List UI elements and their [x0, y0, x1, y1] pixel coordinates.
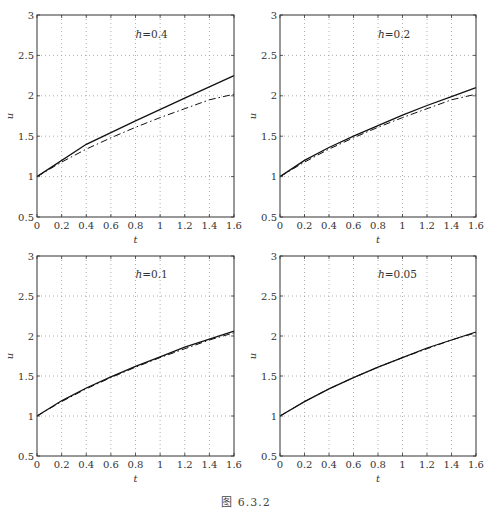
grid: [37, 15, 234, 217]
x-tick-label: 0.4: [78, 220, 94, 231]
y-tick-label: 1: [28, 171, 34, 182]
x-tick-label: 0.6: [103, 220, 119, 231]
x-tick-label: 1.2: [419, 459, 435, 470]
y-tick-label: 2.5: [261, 50, 277, 61]
x-tick-label: 0: [34, 220, 40, 231]
y-tick-label: 1.5: [18, 131, 34, 142]
x-tick-label: 0.8: [370, 220, 386, 231]
x-tick-label: 0.6: [346, 220, 362, 231]
x-tick-label: 1: [399, 220, 405, 231]
x-tick-label: 0: [34, 459, 40, 470]
y-tick-label: 0.5: [18, 451, 34, 462]
y-tick-label: 0.5: [261, 451, 277, 462]
x-tick-label: 0.2: [54, 220, 70, 231]
y-axis-label: u: [4, 353, 15, 359]
y-tick-label: 3: [28, 251, 34, 262]
x-tick-label: 1.2: [177, 220, 193, 231]
y-tick-label: 1.5: [261, 371, 277, 382]
y-tick-label: 3: [28, 10, 34, 21]
series-dash-dot: [37, 333, 234, 416]
step-size-annotation: h=0.05: [378, 268, 417, 280]
x-tick-label: 1.6: [226, 459, 242, 470]
x-tick-label: 1.4: [444, 220, 460, 231]
grid: [280, 15, 476, 217]
x-tick-label: 0.2: [297, 220, 313, 231]
y-tick-label: 2: [271, 90, 277, 101]
x-tick-label: 1.6: [468, 220, 484, 231]
x-tick-label: 1.4: [444, 459, 460, 470]
subplot-top-left: 00.20.40.60.811.21.41.60.511.522.53tuh=0…: [4, 10, 242, 246]
subplot-bottom-left: 00.20.40.60.811.21.41.60.511.522.53tuh=0…: [4, 251, 242, 485]
series-solid: [37, 331, 234, 416]
x-tick-label: 0.8: [128, 220, 144, 231]
y-tick-label: 0.5: [18, 212, 34, 223]
y-axis-label: u: [4, 113, 15, 119]
x-tick-label: 1.4: [201, 220, 217, 231]
x-axis-label: t: [133, 473, 138, 484]
x-tick-label: 1.6: [226, 220, 242, 231]
y-tick-label: 2: [28, 90, 34, 101]
x-tick-label: 1.6: [468, 459, 484, 470]
x-tick-label: 0.6: [103, 459, 119, 470]
y-axis-label: u: [247, 353, 258, 359]
x-tick-label: 1.4: [201, 459, 217, 470]
x-tick-label: 0.4: [78, 459, 94, 470]
grid: [280, 256, 476, 456]
x-tick-label: 0.2: [297, 459, 313, 470]
x-axis-label: t: [376, 234, 381, 245]
step-size-annotation: h=0.1: [136, 268, 168, 280]
x-tick-label: 0.8: [370, 459, 386, 470]
y-tick-label: 2: [28, 331, 34, 342]
x-axis-label: t: [133, 234, 138, 245]
x-tick-label: 1.2: [419, 220, 435, 231]
y-tick-label: 3: [271, 10, 277, 21]
x-tick-label: 0: [277, 220, 283, 231]
y-tick-label: 1: [271, 411, 277, 422]
step-size-annotation: h=0.4: [136, 28, 169, 40]
x-tick-label: 0.8: [128, 459, 144, 470]
grid: [37, 256, 234, 456]
y-tick-label: 2.5: [18, 50, 34, 61]
x-tick-label: 1.2: [177, 459, 193, 470]
x-tick-label: 0: [277, 459, 283, 470]
subplot-top-right: 00.20.40.60.811.21.41.60.511.522.53tuh=0…: [247, 10, 484, 246]
x-tick-label: 0.4: [321, 220, 337, 231]
x-tick-label: 0.2: [54, 459, 70, 470]
y-tick-label: 0.5: [261, 212, 277, 223]
figure-caption: 图 6.3.2: [0, 493, 492, 509]
y-tick-label: 1: [271, 171, 277, 182]
y-tick-label: 1.5: [18, 371, 34, 382]
x-tick-label: 1: [157, 459, 163, 470]
subplot-bottom-right: 00.20.40.60.811.21.41.60.511.522.53tuh=0…: [247, 251, 484, 485]
series-solid: [37, 76, 234, 177]
step-size-annotation: h=0.2: [378, 28, 410, 40]
series-dash-dot: [280, 333, 476, 416]
x-axis-label: t: [376, 473, 381, 484]
y-tick-label: 3: [271, 251, 277, 262]
y-axis-label: u: [247, 113, 258, 119]
y-tick-label: 1: [28, 411, 34, 422]
x-tick-label: 1: [157, 220, 163, 231]
y-tick-label: 2.5: [261, 291, 277, 302]
y-tick-label: 2.5: [18, 291, 34, 302]
x-tick-label: 0.4: [321, 459, 337, 470]
y-tick-label: 1.5: [261, 131, 277, 142]
y-tick-label: 2: [271, 331, 277, 342]
x-tick-label: 1: [399, 459, 405, 470]
x-tick-label: 0.6: [346, 459, 362, 470]
